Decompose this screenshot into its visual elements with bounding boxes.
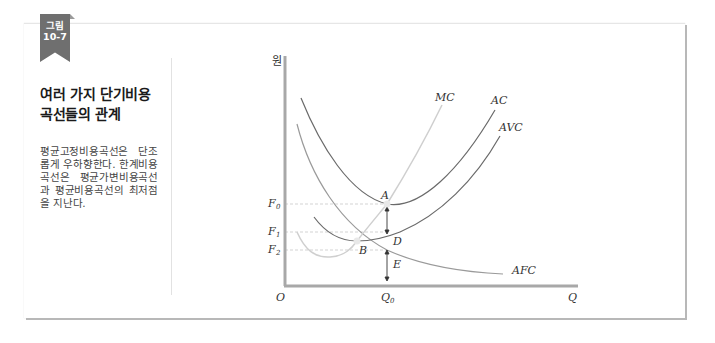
afc-curve (297, 124, 503, 274)
point-b-label: B (358, 244, 367, 257)
f0-subscript: 0 (276, 203, 281, 211)
origin-label: O (276, 291, 285, 304)
point-d-label: D (392, 235, 402, 248)
x-axis-label: Q (568, 291, 577, 304)
f1-label: F (267, 225, 276, 238)
mc-label: MC (434, 91, 455, 104)
f0-label: F (267, 197, 276, 210)
mc-curve (297, 105, 442, 257)
arrow-up-icon (385, 207, 389, 211)
point-a-label: A (380, 189, 389, 202)
f1-subscript: 1 (276, 231, 280, 239)
cost-curves-chart: 원 O Q Q 0 F 0 F 1 F 2 MC AC AVC AFC A B … (0, 0, 715, 343)
y-axis-label: 원 (272, 55, 282, 68)
ac-label: AC (490, 94, 508, 107)
q0-subscript: 0 (390, 297, 395, 305)
arrow-down-icon (385, 277, 389, 281)
avc-curve (314, 136, 500, 241)
q0-label: Q (381, 291, 390, 304)
f2-label: F (267, 243, 276, 256)
distance-arrows (385, 207, 389, 281)
afc-label: AFC (511, 264, 537, 277)
f2-subscript: 2 (275, 249, 281, 257)
ac-curve (301, 98, 495, 205)
avc-label: AVC (498, 121, 523, 134)
arrow-down-icon (385, 230, 389, 234)
guide-lines (285, 204, 387, 250)
point-e-label: E (392, 258, 401, 271)
